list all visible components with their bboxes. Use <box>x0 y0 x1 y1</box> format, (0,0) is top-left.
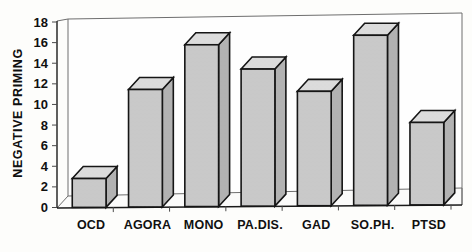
x-axis-label: AGORA <box>124 218 172 232</box>
bar-side-texture <box>387 23 398 205</box>
x-axis-label: OCD <box>77 218 105 232</box>
x-axis-label: PA.DIS. <box>237 218 283 232</box>
bar-ptsd <box>410 110 455 204</box>
bar-agora <box>129 77 174 206</box>
bar-front-texture <box>129 89 163 206</box>
y-tick-label: 12 <box>34 76 48 91</box>
y-axis-title: NEGATIVE PRIMING <box>11 48 25 178</box>
x-axis-label: SO.PH. <box>351 218 395 232</box>
bar-front-texture <box>72 179 106 208</box>
bar-mono <box>185 33 230 207</box>
y-axis-ticks: 024681012141618 <box>34 15 57 216</box>
bar-side-texture <box>275 57 286 206</box>
bar-front-texture <box>297 91 331 205</box>
bar-front-texture <box>354 35 388 205</box>
y-tick-label: 10 <box>34 97 48 112</box>
negative-priming-bar-chart: 024681012141618 NEGATIVE PRIMING OCDAGOR… <box>0 0 472 252</box>
bar-pa-dis- <box>241 57 286 206</box>
y-tick-label: 16 <box>34 35 48 50</box>
y-tick-label: 6 <box>41 138 48 153</box>
bar-side-texture <box>162 77 173 206</box>
bar-so-ph- <box>354 23 399 205</box>
bar-ocd <box>72 167 117 208</box>
bar-side-texture <box>444 110 455 204</box>
y-tick-label: 18 <box>34 15 48 30</box>
y-tick-label: 2 <box>41 179 48 194</box>
bar-side-texture <box>219 33 230 207</box>
x-axis-labels: OCDAGORAMONOPA.DIS.GADSO.PH.PTSD <box>77 218 446 232</box>
x-axis-label: PTSD <box>412 218 446 232</box>
x-axis-label: GAD <box>302 218 330 232</box>
y-tick-label: 4 <box>41 159 49 174</box>
bar-side-texture <box>331 79 342 205</box>
y-tick-label: 8 <box>41 118 48 133</box>
bar-front-texture <box>185 45 219 207</box>
y-tick-label: 0 <box>41 200 48 215</box>
chart-canvas: 024681012141618 NEGATIVE PRIMING OCDAGOR… <box>0 0 472 252</box>
y-tick-label: 14 <box>34 56 49 71</box>
bar-front-texture <box>410 122 444 204</box>
bar-front-texture <box>241 69 275 206</box>
x-axis-label: MONO <box>184 218 224 232</box>
bar-gad <box>297 79 342 205</box>
